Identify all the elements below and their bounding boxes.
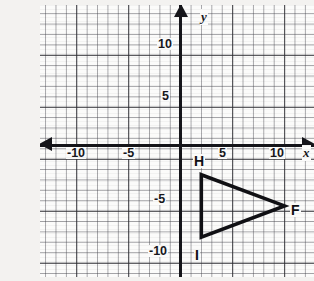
coordinate-plane: y x -10 -5 5 10 10 5 -5 -10 H F I — [40, 5, 314, 277]
triangle-polygon — [201, 175, 284, 237]
triangle-shape — [40, 5, 314, 277]
vertex-label-I: I — [194, 248, 200, 262]
vertex-label-H: H — [193, 154, 205, 168]
worksheet-page: ) y x -10 -5 5 10 10 5 -5 -10 H F I — [0, 0, 314, 281]
vertex-label-F: F — [290, 203, 301, 217]
